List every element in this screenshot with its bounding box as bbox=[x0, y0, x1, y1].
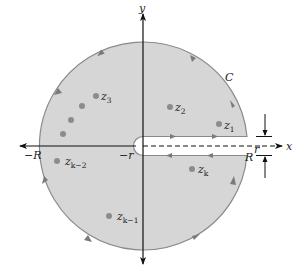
point-z3 bbox=[93, 93, 99, 99]
label-r: r bbox=[254, 143, 260, 156]
point-z1 bbox=[216, 121, 222, 127]
point-zk-2 bbox=[54, 158, 60, 164]
point-zk-1 bbox=[106, 213, 112, 219]
label-neg-r: −r bbox=[119, 149, 134, 162]
point-z2 bbox=[167, 104, 173, 110]
keyhole-contour-diagram: y x C −R R −r r z1 z2 z3 zk−2 zk−1 zk bbox=[0, 0, 300, 271]
contour-label: C bbox=[225, 71, 234, 84]
label-neg-R: −R bbox=[24, 149, 42, 162]
y-axis-label: y bbox=[138, 2, 146, 15]
point-extra-2 bbox=[68, 117, 74, 123]
point-extra-3 bbox=[60, 131, 66, 137]
point-extra-1 bbox=[79, 103, 85, 109]
x-axis-label: x bbox=[286, 140, 293, 153]
point-zk bbox=[189, 166, 195, 172]
label-R: R bbox=[244, 151, 253, 164]
